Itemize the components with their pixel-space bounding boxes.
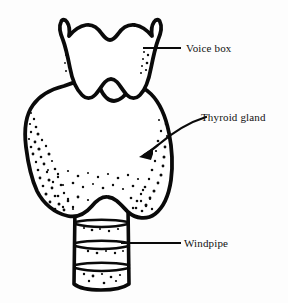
label-thyroid-gland: Thyroid gland [201, 111, 266, 123]
thyroid-gland-structure [25, 79, 172, 218]
anatomy-figure: Voice box Thyroid gland Windpipe [0, 0, 288, 303]
label-voice-box: Voice box [186, 42, 232, 54]
label-windpipe: Windpipe [184, 237, 228, 249]
anatomy-diagram-canvas: Voice box Thyroid gland Windpipe [0, 0, 288, 303]
